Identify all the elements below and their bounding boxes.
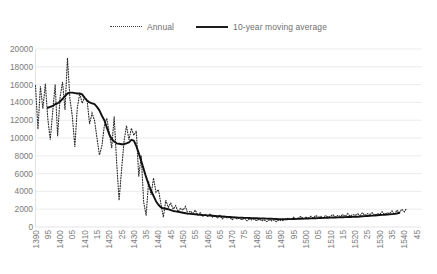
y-axis-tick-label: 6000 [0, 170, 33, 178]
y-axis-tick-label: 12000 [0, 116, 33, 124]
y-axis-tick-label: 16000 [0, 81, 33, 89]
y-axis-tick-label: 10000 [0, 134, 33, 142]
chart-container: Annual 10-year moving average 2000018000… [0, 0, 437, 274]
y-axis-tick-label: 14000 [0, 98, 33, 106]
y-axis-tick-label: 8000 [0, 152, 33, 160]
y-axis-tick-label: 4000 [0, 187, 33, 195]
y-axis-tick-label: 2000 [0, 205, 33, 213]
y-axis-tick-label: 18000 [0, 63, 33, 71]
y-axis-tick-label: 20000 [0, 45, 33, 53]
series-line-annual [36, 58, 407, 222]
chart-plot-area [0, 0, 437, 274]
y-axis-tick-label: 0 [0, 223, 33, 231]
y-axis-tick-labels: 2000018000160001400012000100008000600040… [0, 0, 33, 274]
chart-gridlines [36, 49, 422, 227]
